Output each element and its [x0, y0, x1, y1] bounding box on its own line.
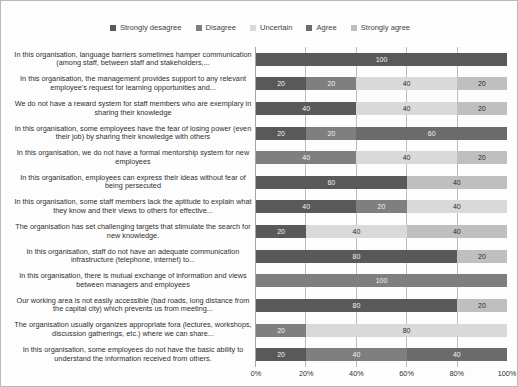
bar-segment[interactable]: 40 [407, 348, 507, 361]
legend-label: Uncertain [260, 23, 293, 32]
bar-track: 8020 [256, 250, 507, 263]
bar-row: 8020 [256, 293, 507, 318]
legend-swatch-icon [351, 25, 357, 31]
legend-swatch-icon [110, 25, 116, 31]
bar-segment[interactable]: 20 [256, 324, 306, 337]
category-label: In this organisation, we do not have a f… [13, 145, 255, 170]
bar-row: 20204020 [256, 72, 507, 97]
chart-legend: Strongly desagreeDisagreeUncertainAgreeS… [1, 23, 518, 32]
legend-label: Agree [316, 23, 336, 32]
legend-label: Disagree [206, 23, 236, 32]
bar-track: 402040 [256, 200, 507, 213]
bar-segment[interactable]: 40 [356, 77, 456, 90]
bar-row: 204040 [256, 342, 507, 367]
bar-segment[interactable]: 20 [256, 225, 306, 238]
legend-swatch-icon [196, 25, 202, 31]
bar-segment[interactable]: 20 [256, 77, 306, 90]
category-label: In this organisation, staff do not have … [13, 244, 255, 269]
bar-row: 402040 [256, 195, 507, 220]
bar-segment[interactable]: 80 [256, 250, 457, 263]
bar-segment[interactable]: 100 [256, 53, 507, 66]
bar-track: 6040 [256, 176, 507, 189]
bar-rows: 1002020402040402020206040402060404020402… [256, 47, 507, 367]
bar-segment[interactable]: 40 [306, 348, 406, 361]
legend-item[interactable]: Agree [306, 23, 336, 32]
axis-tick-label: 0% [251, 369, 262, 378]
bar-row: 404020 [256, 96, 507, 121]
bar-segment[interactable]: 40 [256, 200, 356, 213]
bar-segment[interactable]: 40 [356, 102, 456, 115]
legend-swatch-icon [306, 25, 312, 31]
bar-track: 2080 [256, 324, 507, 337]
legend-item[interactable]: Strongly agree [351, 23, 410, 32]
axis-tick-label: 60% [399, 369, 414, 378]
category-axis: In this organisation, language barriers … [13, 47, 256, 367]
category-label: In this organisation, employees can expr… [13, 170, 255, 195]
category-label: In this organisation, some employees hav… [13, 121, 255, 146]
bar-track: 404020 [256, 102, 507, 115]
stacked-bar-chart: Strongly desagreeDisagreeUncertainAgreeS… [0, 0, 518, 387]
bar-row: 202060 [256, 121, 507, 146]
bar-segment[interactable]: 20 [457, 250, 507, 263]
category-label: We do not have a reward system for staff… [13, 96, 255, 121]
category-label: In this organisation, some staff members… [13, 195, 255, 220]
category-label: In this organisation, the management pro… [13, 72, 255, 97]
bar-segment[interactable]: 40 [306, 225, 406, 238]
bar-track: 204040 [256, 348, 507, 361]
bar-segment[interactable]: 20 [457, 77, 507, 90]
bar-segment[interactable]: 80 [306, 324, 507, 337]
bar-segment[interactable]: 40 [407, 200, 507, 213]
legend-item[interactable]: Uncertain [250, 23, 293, 32]
bar-track: 204040 [256, 225, 507, 238]
bar-segment[interactable]: 40 [256, 102, 356, 115]
bar-segment[interactable]: 80 [256, 299, 457, 312]
bar-segment[interactable]: 20 [256, 348, 306, 361]
axis-tick-label: 80% [450, 369, 465, 378]
bar-segment[interactable]: 40 [407, 176, 507, 189]
category-label: In this organisation, language barriers … [13, 47, 255, 72]
axis-tick-label: 100% [498, 369, 517, 378]
bars-area: 1002020402040402020206040402060404020402… [256, 47, 507, 367]
bar-segment[interactable]: 60 [256, 176, 407, 189]
bar-segment[interactable]: 20 [306, 127, 356, 140]
axis-tick-label: 40% [349, 369, 364, 378]
bar-segment[interactable]: 20 [457, 151, 507, 164]
legend-label: Strongly agree [361, 23, 410, 32]
bar-segment[interactable]: 20 [256, 127, 306, 140]
bar-row: 2080 [256, 318, 507, 343]
category-label: The organisation usually organizes appro… [13, 318, 255, 343]
bar-segment[interactable]: 40 [256, 151, 356, 164]
bar-row: 100 [256, 47, 507, 72]
bar-segment[interactable]: 20 [306, 77, 356, 90]
bar-segment[interactable]: 60 [356, 127, 507, 140]
bar-track: 202060 [256, 127, 507, 140]
bar-track: 404020 [256, 151, 507, 164]
legend-item[interactable]: Strongly desagree [110, 23, 182, 32]
bar-row: 404020 [256, 145, 507, 170]
bar-track: 100 [256, 274, 507, 287]
plot-area: In this organisation, language barriers … [13, 47, 507, 367]
value-axis: 0%20%40%60%80%100% [256, 367, 507, 383]
legend-item[interactable]: Disagree [196, 23, 236, 32]
bar-segment[interactable]: 100 [256, 274, 507, 287]
bar-row: 6040 [256, 170, 507, 195]
bar-segment[interactable]: 40 [356, 151, 456, 164]
category-label: In this organisation, there is mutual ex… [13, 268, 255, 293]
axis-tick-label: 20% [299, 369, 314, 378]
bar-segment[interactable]: 20 [457, 299, 507, 312]
bar-segment[interactable]: 20 [356, 200, 406, 213]
category-label: In this organisation, some employees do … [13, 342, 255, 367]
bar-row: 100 [256, 268, 507, 293]
bar-segment[interactable]: 40 [407, 225, 507, 238]
bar-track: 100 [256, 53, 507, 66]
legend-label: Strongly desagree [120, 23, 182, 32]
bar-segment[interactable]: 20 [457, 102, 507, 115]
bar-track: 8020 [256, 299, 507, 312]
category-label: The organisation has set challenging tar… [13, 219, 255, 244]
bar-track: 20204020 [256, 77, 507, 90]
legend-swatch-icon [250, 25, 256, 31]
bar-row: 204040 [256, 219, 507, 244]
category-label: Our working area is not easily accessibl… [13, 293, 255, 318]
bar-row: 8020 [256, 244, 507, 269]
